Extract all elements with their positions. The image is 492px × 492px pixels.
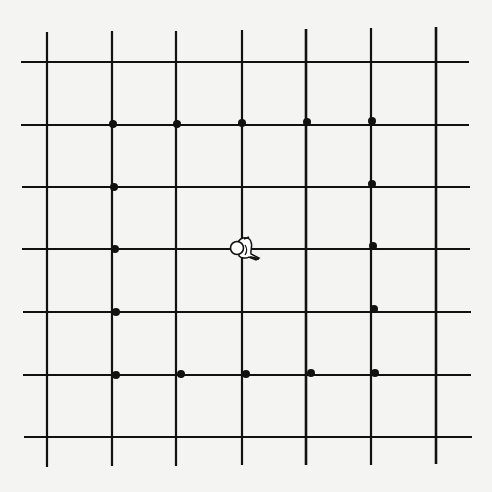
intersection-dot[interactable] [370, 305, 378, 313]
intersection-dot[interactable] [369, 242, 377, 250]
intersection-dot[interactable] [307, 369, 315, 377]
intersection-dot[interactable] [173, 120, 181, 128]
intersection-dot[interactable] [371, 369, 379, 377]
intersection-dot[interactable] [303, 118, 311, 126]
intersection-dot[interactable] [242, 370, 250, 378]
intersection-dot[interactable] [111, 245, 119, 253]
intersection-dot[interactable] [109, 120, 117, 128]
intersection-dot[interactable] [368, 180, 376, 188]
intersection-dot[interactable] [177, 370, 185, 378]
intersection-dot[interactable] [112, 371, 120, 379]
intersection-dot[interactable] [110, 183, 118, 191]
intersection-dot[interactable] [238, 119, 246, 127]
intersection-dot[interactable] [368, 117, 376, 125]
game-board [0, 0, 492, 492]
intersection-dot[interactable] [112, 308, 120, 316]
